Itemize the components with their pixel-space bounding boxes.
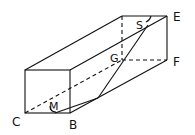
angle-mark-S (146, 16, 151, 22)
prism-diagram: C B M G S E F (0, 0, 195, 135)
segment-P-to-S (98, 25, 148, 98)
segment-M-to-P (55, 98, 98, 113)
label-F: F (173, 55, 180, 69)
label-G: G (110, 52, 119, 65)
top-left-edge (25, 16, 122, 70)
label-E: E (173, 10, 181, 24)
label-M: M (49, 100, 59, 113)
label-B: B (69, 118, 77, 132)
label-C: C (12, 115, 20, 129)
label-S: S (136, 19, 143, 32)
